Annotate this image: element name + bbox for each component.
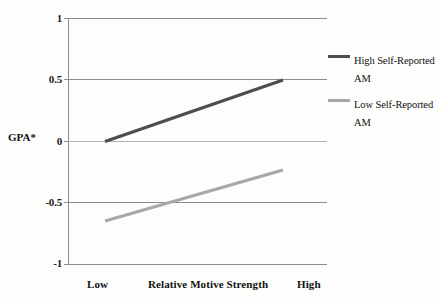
x-axis-label-high: High (297, 278, 321, 290)
gridline-1 (68, 18, 327, 19)
y-tick-label-neg0_5: -0.5 (34, 197, 62, 208)
gridline-0_5 (68, 79, 327, 80)
y-tick-mark-1 (64, 18, 68, 19)
gridline-0 (68, 141, 327, 142)
y-tick-mark-neg0_5 (64, 202, 68, 203)
y-tick-label-neg1-wrap: -1 (30, 258, 62, 269)
x-axis-title: Relative Motive Strength (148, 278, 268, 290)
legend: High Self-Reported AM Low Self-Reported … (328, 50, 436, 138)
legend-entry-low: Low Self-Reported AM (328, 94, 436, 130)
gridline-neg1 (68, 264, 327, 265)
chart-screenshot: 1 0.5 0 -0.5 -1 GPA* Low Relative Motive… (0, 0, 439, 304)
legend-label-high: High Self-Reported AM (354, 55, 435, 84)
y-tick-label-0_5-wrap: 0.5 (30, 74, 62, 85)
y-axis-title: GPA* (8, 131, 54, 143)
y-tick-label-1: 1 (34, 13, 62, 24)
y-tick-label-0_5: 0.5 (34, 74, 62, 85)
y-tick-mark-neg1 (64, 264, 68, 265)
x-axis-label-low: Low (87, 278, 108, 290)
legend-entry-high: High Self-Reported AM (328, 50, 436, 86)
gridline-neg0_5 (68, 202, 327, 203)
plot-area (68, 18, 327, 264)
y-tick-mark-0_5 (64, 79, 68, 80)
legend-swatch-high-icon (328, 55, 350, 58)
legend-swatch-low-icon (328, 99, 350, 102)
legend-label-low: Low Self-Reported AM (354, 99, 433, 128)
y-tick-label-1-wrap: 1 (30, 13, 62, 24)
y-tick-label-neg1: -1 (34, 258, 62, 269)
y-tick-label-neg0_5-wrap: -0.5 (30, 197, 62, 208)
y-tick-mark-0 (64, 141, 68, 142)
